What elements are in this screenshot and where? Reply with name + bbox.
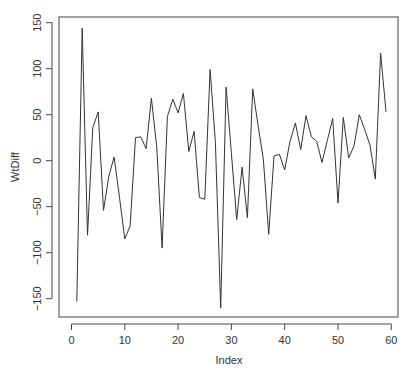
- x-tick-label: 30: [225, 334, 237, 346]
- y-axis: −150−100−50050100150: [31, 14, 52, 312]
- y-tick-label: 150: [31, 14, 43, 32]
- x-tick-label: 40: [279, 334, 291, 346]
- x-tick-label: 50: [332, 334, 344, 346]
- x-axis: 0102030405060: [68, 324, 397, 346]
- y-tick-label: 100: [31, 60, 43, 78]
- line-chart: −150−100−50050100150 0102030405060 WtDif…: [0, 0, 413, 379]
- y-tick-label: 50: [31, 109, 43, 121]
- y-tick-label: 0: [31, 158, 43, 164]
- x-tick-label: 10: [119, 334, 131, 346]
- x-axis-title: Index: [216, 354, 243, 366]
- plot-frame: [59, 17, 398, 317]
- y-axis-title: WtDiff: [9, 151, 21, 182]
- x-tick-label: 20: [172, 334, 184, 346]
- y-tick-label: −50: [31, 197, 43, 216]
- data-line: [77, 28, 386, 308]
- x-tick-label: 0: [68, 334, 74, 346]
- x-tick-label: 60: [385, 334, 397, 346]
- y-tick-label: −100: [31, 240, 43, 265]
- y-tick-label: −150: [31, 286, 43, 311]
